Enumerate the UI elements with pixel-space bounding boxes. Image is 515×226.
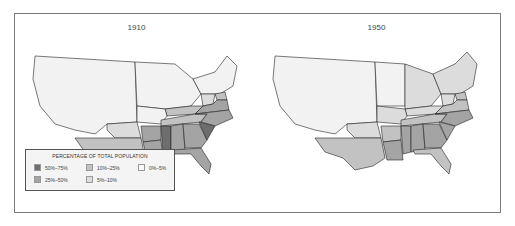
region-west: [33, 56, 137, 134]
region-great-lakes: [405, 64, 441, 109]
region-texas: [315, 138, 385, 170]
legend-swatch: [34, 176, 41, 183]
legend-item-25-50: 25%–50%: [34, 176, 68, 183]
legend-item-50-75: 50%–75%: [34, 164, 68, 171]
region-northeast: [433, 52, 477, 94]
region-florida: [173, 148, 211, 174]
figure-frame: 1910: [14, 13, 501, 213]
region-alabama: [171, 124, 185, 152]
region-arkansas: [141, 126, 161, 142]
region-oklahoma: [107, 122, 141, 138]
legend-swatch: [34, 164, 41, 171]
legend-swatch: [86, 176, 93, 183]
legend-label: 10%–25%: [97, 165, 120, 171]
region-louisiana: [383, 140, 403, 160]
map-1950: 1950: [255, 14, 498, 174]
legend-label: 25%–50%: [45, 177, 68, 183]
legend-item-10-25: 10%–25%: [86, 164, 120, 171]
legend-label: 50%–75%: [45, 165, 68, 171]
map-legend: PERCENTAGE OF TOTAL POPULATION 50%–75% 2…: [25, 149, 175, 191]
region-west: [273, 56, 377, 134]
region-arkansas: [381, 126, 401, 142]
region-florida: [413, 148, 451, 174]
legend-swatch: [138, 164, 145, 171]
legend-swatch: [86, 164, 93, 171]
map-title-1950: 1950: [255, 23, 498, 32]
region-midwest: [135, 62, 201, 109]
legend-item-0-5: 0%–5%: [138, 164, 166, 171]
legend-title: PERCENTAGE OF TOTAL POPULATION: [26, 153, 174, 159]
region-northeast: [193, 56, 237, 94]
region-plains-midwest: [375, 62, 405, 106]
region-oklahoma: [347, 122, 381, 138]
region-alabama: [411, 124, 425, 152]
us-map-1950: [255, 34, 498, 174]
map-title-1910: 1910: [15, 23, 258, 32]
region-mississippi: [401, 126, 411, 154]
legend-label: 0%–5%: [149, 165, 166, 171]
legend-label: 5%–10%: [97, 177, 117, 183]
legend-item-5-10: 5%–10%: [86, 176, 117, 183]
